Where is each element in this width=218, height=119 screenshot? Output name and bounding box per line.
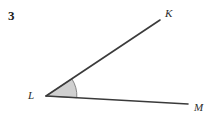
diagram-background <box>0 0 218 119</box>
point-label-k: K <box>165 8 172 19</box>
angle-diagram-canvas <box>0 0 218 119</box>
geometry-figure: 3 K L M <box>0 0 218 119</box>
point-label-l: L <box>28 90 34 101</box>
point-label-m: M <box>194 102 203 113</box>
problem-number: 3 <box>8 9 15 22</box>
